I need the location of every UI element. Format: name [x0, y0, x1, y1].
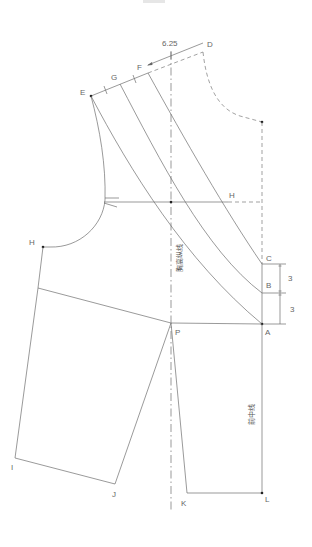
label-j: J: [112, 490, 116, 499]
label-i: I: [11, 463, 13, 472]
label-c: C: [266, 254, 272, 263]
label-d: D: [207, 40, 213, 49]
label-l: L: [265, 495, 270, 504]
dart-line-upper: [38, 288, 171, 323]
bust-line: [171, 323, 262, 324]
label-b: B: [266, 281, 271, 290]
armhole-curve: [43, 96, 105, 247]
shoulder-extension-dashed: [148, 52, 203, 73]
label-h-right: H: [229, 191, 235, 200]
style-curve-f-to-c: [148, 73, 262, 264]
label-p: P: [175, 328, 180, 337]
label-h-left: H: [29, 238, 35, 247]
armhole-notch-2: [104, 203, 117, 207]
bust-point: [170, 201, 173, 204]
bust-vertical-line-label: 胸高纵线: [175, 244, 184, 272]
label-f: F: [137, 63, 142, 72]
neckline-dashed: [203, 52, 262, 122]
dart-leg-left: [115, 323, 171, 484]
dart-leg-right: [171, 323, 187, 493]
side-line-upper: [38, 247, 43, 288]
hem-left: [15, 458, 115, 484]
style-curve-e-to-a: [91, 96, 262, 324]
label-e: E: [80, 88, 85, 97]
center-front-line-label: 前中线: [247, 404, 256, 425]
pattern-diagram: D 6.25 F G E H H C B A 3 3 P I J K L 胸高纵…: [0, 0, 312, 547]
shoulder-line: [91, 73, 148, 96]
label-g: G: [111, 73, 117, 82]
label-k: K: [181, 499, 187, 508]
label-a: A: [265, 328, 271, 337]
point-l: [261, 492, 264, 495]
arrow-head-icon: [147, 62, 153, 66]
dimension-b-a: 3: [290, 305, 295, 314]
dimension-c-b: 3: [288, 274, 293, 283]
side-line-lower: [15, 288, 38, 458]
dimension-6-25: 6.25: [162, 39, 178, 48]
style-curve-g-to-b: [120, 84, 262, 293]
